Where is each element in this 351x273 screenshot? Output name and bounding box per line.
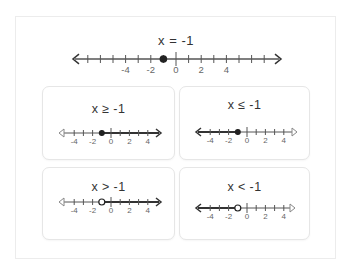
svg-text:0: 0 xyxy=(245,212,250,221)
main-equation-title: x = -1 xyxy=(150,33,202,48)
svg-text:-2: -2 xyxy=(89,206,97,215)
svg-text:4: 4 xyxy=(146,137,151,146)
svg-text:-2: -2 xyxy=(225,136,233,145)
svg-text:2: 2 xyxy=(263,136,268,145)
number-line-less-equal: -4-2024 xyxy=(180,87,311,161)
svg-text:-4: -4 xyxy=(207,212,215,221)
svg-text:4: 4 xyxy=(224,64,229,75)
svg-text:0: 0 xyxy=(245,136,250,145)
svg-text:-4: -4 xyxy=(71,137,79,146)
svg-text:4: 4 xyxy=(282,212,287,221)
number-line-greater: -4-2024 xyxy=(43,168,176,241)
svg-text:2: 2 xyxy=(127,206,132,215)
number-line-greater-equal: -4-2024 xyxy=(43,87,176,161)
svg-text:-4: -4 xyxy=(207,136,215,145)
svg-text:2: 2 xyxy=(263,212,268,221)
svg-text:-4: -4 xyxy=(71,206,79,215)
svg-text:4: 4 xyxy=(282,136,287,145)
svg-text:4: 4 xyxy=(146,206,151,215)
svg-text:-2: -2 xyxy=(147,64,155,75)
svg-text:0: 0 xyxy=(109,137,114,146)
svg-text:-4: -4 xyxy=(121,64,129,75)
svg-text:-2: -2 xyxy=(225,212,233,221)
svg-text:2: 2 xyxy=(199,64,204,75)
svg-text:0: 0 xyxy=(173,64,178,75)
card-x-less: x < -1 -4-2024 xyxy=(179,167,310,240)
card-x-less-equal: x ≤ -1 -4-2024 xyxy=(179,86,310,160)
svg-text:-2: -2 xyxy=(89,137,97,146)
svg-text:2: 2 xyxy=(127,137,132,146)
card-x-greater: x > -1 -4-2024 xyxy=(42,167,175,240)
number-line-less: -4-2024 xyxy=(180,168,311,241)
card-x-greater-equal: x ≥ -1 -4-2024 xyxy=(42,86,175,160)
svg-text:0: 0 xyxy=(109,206,114,215)
